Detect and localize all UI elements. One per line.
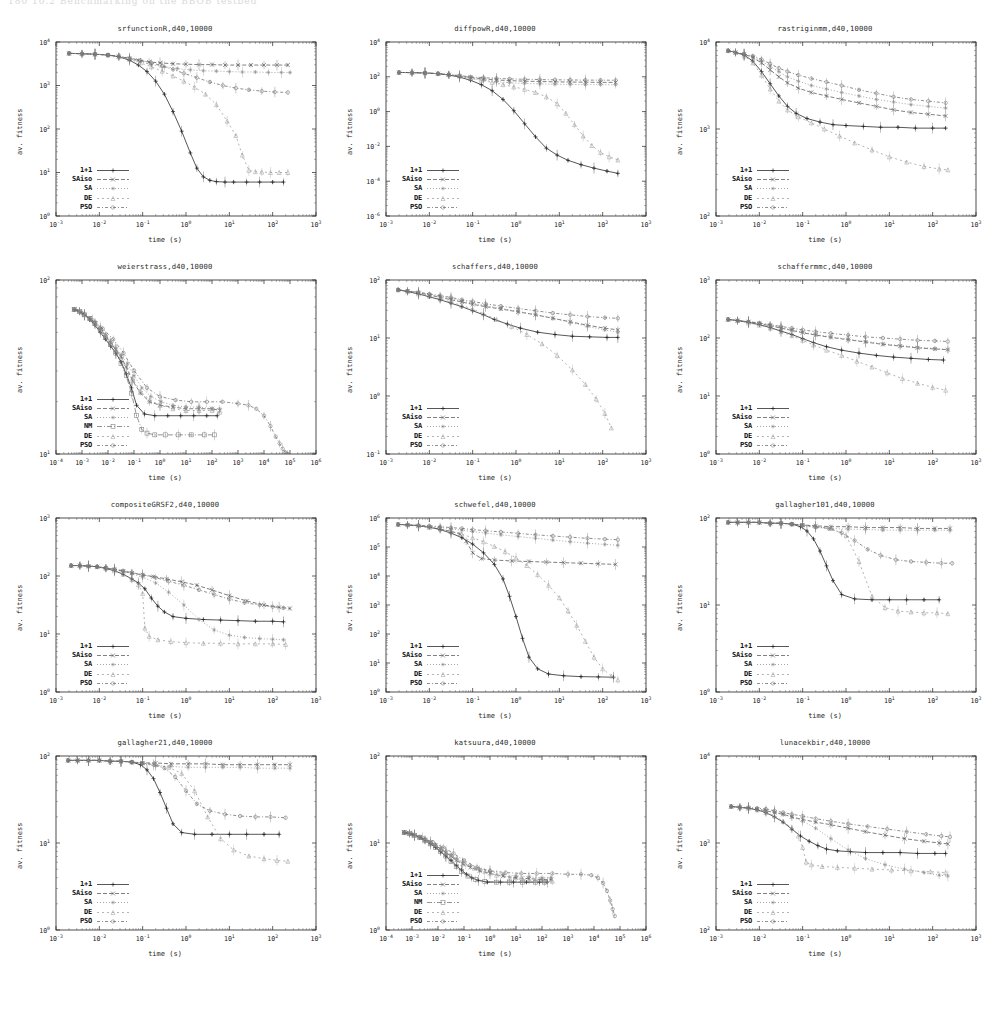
svg-text:10-4: 10-4 (366, 177, 380, 186)
legend-item-pso: PSO (394, 441, 460, 450)
svg-text:100: 100 (369, 688, 380, 697)
legend-item-saiso: SAiso (64, 651, 130, 660)
svg-text:101: 101 (39, 450, 50, 459)
svg-text:10-3: 10-3 (405, 934, 419, 943)
svg-text:100: 100 (369, 926, 380, 935)
svg-text:104: 104 (369, 38, 380, 47)
legend-swatch-pso (426, 441, 460, 450)
svg-text:10-2: 10-2 (422, 220, 436, 229)
legend-label: SA (394, 889, 422, 898)
svg-text:102: 102 (39, 572, 50, 581)
legend-swatch-1plus1 (426, 642, 460, 651)
legend-label: SAiso (724, 413, 752, 422)
plot-canvas: 10-310-210-1100101102103102103104 (660, 22, 990, 260)
legend-item-de: DE (394, 194, 460, 203)
plot-canvas: 10-310-210-110010110210310-1100101102 (330, 260, 660, 498)
legend-item-pso: PSO (64, 203, 130, 212)
svg-text:102: 102 (369, 630, 380, 639)
svg-text:102: 102 (369, 276, 380, 285)
plot-canvas: 10-310-210-1100101102103100101102 (0, 736, 330, 974)
legend-swatch-pso (96, 679, 130, 688)
legend-item-pso: PSO (724, 917, 790, 926)
legend-label: SA (724, 422, 752, 431)
svg-text:10-4: 10-4 (379, 934, 393, 943)
svg-text:102: 102 (699, 334, 710, 343)
legend-label: PSO (64, 679, 92, 688)
legend: 1+1 SAiso SA DE PSO (394, 404, 460, 450)
legend-label: DE (724, 194, 752, 203)
svg-text:103: 103 (641, 696, 652, 705)
svg-text:105: 105 (615, 934, 626, 943)
y-axis-label: av. fitness (346, 347, 354, 393)
legend-item-pso: PSO (724, 441, 790, 450)
legend-swatch-1plus1 (756, 880, 790, 889)
subplot-1: diffpowR,d40,1000010-310-210-11001011021… (330, 22, 660, 260)
svg-text:104: 104 (699, 752, 710, 761)
legend-label: DE (64, 670, 92, 679)
svg-text:10-1: 10-1 (466, 458, 480, 467)
svg-text:10-1: 10-1 (466, 220, 480, 229)
svg-text:100: 100 (39, 212, 50, 221)
legend-swatch-sa (96, 184, 130, 193)
y-axis-label: av. fitness (676, 347, 684, 393)
legend-label: 1+1 (394, 642, 422, 651)
legend-item-saiso: SAiso (394, 651, 460, 660)
svg-text:101: 101 (369, 659, 380, 668)
svg-text:10-2: 10-2 (752, 696, 766, 705)
legend-item-pso: PSO (64, 679, 130, 688)
legend-swatch-pso (426, 679, 460, 688)
legend-swatch-sa (426, 184, 460, 193)
svg-text:103: 103 (311, 934, 322, 943)
y-axis-label: av. fitness (346, 585, 354, 631)
svg-text:101: 101 (511, 934, 522, 943)
svg-text:102: 102 (699, 514, 710, 523)
legend-swatch-1plus1 (426, 166, 460, 175)
svg-text:103: 103 (699, 276, 710, 285)
svg-text:10-2: 10-2 (752, 458, 766, 467)
svg-text:10-2: 10-2 (422, 458, 436, 467)
svg-text:101: 101 (699, 601, 710, 610)
x-axis-label: time (s) (330, 712, 660, 720)
svg-text:10-3: 10-3 (709, 458, 723, 467)
legend: 1+1 SAiso SA DE PSO (64, 880, 130, 926)
legend-label: SAiso (64, 175, 92, 184)
legend-swatch-saiso (96, 404, 130, 413)
legend-item-sa: SA (394, 184, 460, 193)
legend-item-1plus1: 1+1 (724, 404, 790, 413)
plot-canvas: 10-310-210-11001011021031001011021031041… (330, 498, 660, 736)
plot-canvas: 10-410-310-210-1100101102103104105106100… (330, 736, 660, 974)
legend-item-1plus1: 1+1 (394, 404, 460, 413)
svg-text:100: 100 (181, 934, 192, 943)
legend-label: PSO (64, 917, 92, 926)
svg-text:10-3: 10-3 (709, 696, 723, 705)
legend: 1+1 SAiso SA DE PSO (64, 166, 130, 212)
legend-swatch-sa (96, 898, 130, 907)
legend-label: DE (64, 432, 92, 441)
legend-item-de: DE (724, 194, 790, 203)
svg-text:103: 103 (971, 220, 982, 229)
svg-text:103: 103 (369, 601, 380, 610)
svg-text:10-1: 10-1 (796, 220, 810, 229)
svg-text:101: 101 (884, 696, 895, 705)
legend-item-saiso: SAiso (724, 651, 790, 660)
legend-item-1plus1: 1+1 (394, 642, 460, 651)
legend-item-pso: PSO (724, 679, 790, 688)
subplot-7: schwefel,d40,1000010-310-210-11001011021… (330, 498, 660, 736)
legend-label: SAiso (64, 889, 92, 898)
legend-swatch-de (426, 432, 460, 441)
plot-canvas: 10-310-210-1100101102103100101102 (660, 498, 990, 736)
legend-label: SAiso (724, 651, 752, 660)
x-axis-label: time (s) (330, 950, 660, 958)
legend-item-sa: SA (394, 889, 460, 898)
svg-text:10-1: 10-1 (136, 934, 150, 943)
svg-text:103: 103 (563, 934, 574, 943)
svg-text:101: 101 (554, 696, 565, 705)
subplot-5: schaffermmc,d40,1000010-310-210-11001011… (660, 260, 990, 498)
svg-text:10-1: 10-1 (796, 696, 810, 705)
legend-item-de: DE (394, 432, 460, 441)
legend-item-nm: NM (64, 422, 130, 431)
legend-label: SAiso (394, 175, 422, 184)
legend-swatch-de (756, 670, 790, 679)
svg-text:103: 103 (641, 220, 652, 229)
svg-text:10-1: 10-1 (366, 450, 380, 459)
